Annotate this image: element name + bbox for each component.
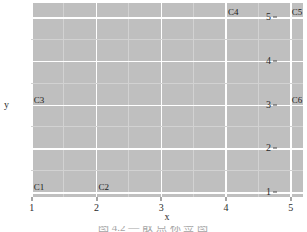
x-tick-label-2: 2 (94, 203, 99, 213)
gridline-major-vertical (96, 3, 98, 197)
gridline-major-vertical (225, 3, 227, 197)
gridline-major-vertical (31, 3, 33, 197)
figure-caption-text: 图 4.2 — 散 点 标 签 图 (98, 226, 208, 232)
y-tick-label-5: 5 (266, 12, 271, 22)
y-tick-label-4: 4 (266, 56, 271, 66)
y-tick-mark-1 (273, 192, 277, 193)
x-tick-label-5: 5 (288, 203, 293, 213)
y-tick-mark-2 (273, 148, 277, 149)
point-label-c1: C1 (34, 183, 45, 192)
gridline-minor-horizontal (31, 39, 303, 40)
x-axis-title: x (165, 212, 170, 222)
y-tick-label-1: 1 (266, 187, 271, 197)
gridline-minor-horizontal (31, 126, 303, 127)
x-tick-mark-5 (290, 197, 291, 201)
gridline-minor-horizontal (31, 170, 303, 171)
chart-figure: C1 C2 C3 C4 C5 C6 5 4 3 2 1 y 1 2 3 4 5 … (0, 0, 307, 232)
gridline-minor-horizontal (31, 83, 303, 84)
gridline-major-horizontal (31, 148, 303, 150)
plot-panel: C1 C2 C3 C4 C5 C6 (31, 3, 303, 197)
y-axis-title: y (4, 100, 9, 110)
x-tick-label-3: 3 (159, 203, 164, 213)
gridline-minor-vertical (128, 3, 129, 197)
point-label-c4: C4 (228, 8, 239, 17)
point-label-c5: C5 (292, 8, 303, 17)
y-tick-mark-4 (273, 60, 277, 61)
y-tick-label-3: 3 (266, 100, 271, 110)
gridline-major-horizontal (31, 192, 303, 194)
x-tick-mark-1 (31, 197, 32, 201)
x-tick-mark-2 (96, 197, 97, 201)
y-tick-mark-3 (273, 104, 277, 105)
point-label-c2: C2 (99, 183, 110, 192)
x-tick-mark-4 (226, 197, 227, 201)
gridline-minor-vertical (193, 3, 194, 197)
gridline-minor-vertical (258, 3, 259, 197)
gridline-major-vertical (161, 3, 163, 197)
x-tick-label-4: 4 (224, 203, 229, 213)
x-tick-mark-3 (161, 197, 162, 201)
gridline-major-horizontal (31, 105, 303, 107)
point-label-c6: C6 (292, 96, 303, 105)
gridline-major-horizontal (31, 61, 303, 63)
gridline-minor-vertical (63, 3, 64, 197)
point-label-c3: C3 (34, 96, 45, 105)
x-tick-label-1: 1 (29, 203, 34, 213)
figure-caption-cropped: 图 4.2 — 散 点 标 签 图 (0, 226, 307, 232)
y-tick-label-2: 2 (266, 143, 271, 153)
y-tick-mark-5 (273, 17, 277, 18)
gridline-major-horizontal (31, 17, 303, 19)
